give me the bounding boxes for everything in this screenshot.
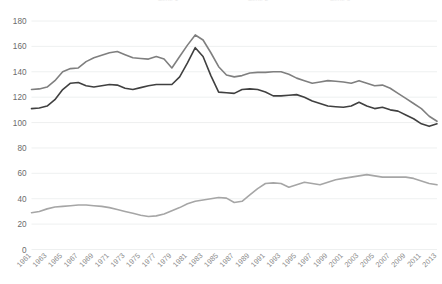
x-axis-tick-label: 1981 bbox=[171, 251, 189, 269]
y-axis-tick-label: 100 bbox=[13, 119, 27, 128]
x-axis-tick-label: 1969 bbox=[77, 251, 95, 269]
x-axis-tick-label: 1961 bbox=[15, 251, 33, 269]
x-axis-tick-label: 1975 bbox=[124, 251, 142, 269]
x-axis-tick-label: 1999 bbox=[311, 251, 329, 269]
y-axis-tick-label: 180 bbox=[13, 17, 27, 26]
x-axis-tick-label: 1967 bbox=[62, 251, 80, 269]
y-axis-tick-label: 120 bbox=[13, 93, 27, 102]
x-axis-tick-label: 1979 bbox=[155, 251, 173, 269]
x-axis-tick-label: 2009 bbox=[389, 251, 407, 269]
x-axis-tick-label: 1977 bbox=[140, 251, 158, 269]
x-axis-tick-label: 2007 bbox=[374, 251, 392, 269]
x-axis-tick-label: 2003 bbox=[342, 251, 360, 269]
x-axis-tick-label: 1995 bbox=[280, 251, 298, 269]
x-axis-tick-label: 1983 bbox=[186, 251, 204, 269]
x-axis-tick-label: 1985 bbox=[202, 251, 220, 269]
y-axis-tick-label: 60 bbox=[17, 169, 27, 178]
data-series-group bbox=[32, 35, 438, 217]
x-axis-tick-label: 1991 bbox=[249, 251, 267, 269]
x-axis-tick-labels: 1961196319651967196919711973197519771979… bbox=[15, 251, 438, 269]
x-axis-tick-label: 1987 bbox=[218, 251, 236, 269]
y-axis-tick-label: 20 bbox=[17, 220, 27, 229]
line-chart: Série 1 Série 2 Série 3 0204060801001201… bbox=[0, 0, 442, 284]
x-axis-tick-label: 1973 bbox=[108, 251, 126, 269]
series-line-series-middle bbox=[32, 48, 438, 127]
x-axis-tick-label: 2001 bbox=[327, 251, 345, 269]
x-axis-tick-label: 2005 bbox=[358, 251, 376, 269]
x-axis-tick-label: 2011 bbox=[405, 251, 423, 269]
y-axis-tick-label: 40 bbox=[17, 195, 27, 204]
x-axis-tick-label: 1963 bbox=[31, 251, 49, 269]
gridlines bbox=[32, 21, 438, 250]
x-axis-tick-label: 1993 bbox=[264, 251, 282, 269]
y-axis-tick-label: 140 bbox=[13, 68, 27, 77]
x-axis-tick-label: 1989 bbox=[233, 251, 251, 269]
y-axis-tick-label: 80 bbox=[17, 144, 27, 153]
x-axis-tick-label: 1965 bbox=[46, 251, 64, 269]
x-axis-tick-label: 2013 bbox=[420, 251, 438, 269]
chart-plot-area: 020406080100120140160180 196119631965196… bbox=[0, 0, 442, 284]
y-axis-tick-label: 160 bbox=[13, 42, 27, 51]
series-line-series-lower bbox=[32, 175, 438, 217]
x-axis-tick-label: 1971 bbox=[93, 251, 111, 269]
x-axis-tick-label: 1997 bbox=[296, 251, 314, 269]
y-axis-tick-labels: 020406080100120140160180 bbox=[13, 17, 27, 255]
